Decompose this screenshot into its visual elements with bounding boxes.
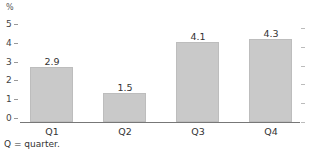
tick-mark [14,43,18,44]
tick-mark [14,62,18,63]
data-label-q3: 4.1 [176,31,220,42]
y-tick-label: 1 [6,94,12,104]
y-tick-4: 4 [6,38,18,48]
y-tick-label: 4 [6,38,12,48]
y-tick-label: 2 [6,75,12,85]
right-tick-mark [301,28,305,29]
x-tick-label-q2: Q2 [103,126,147,137]
tick-mark [14,118,18,119]
y-tick-2: 2 [6,75,18,85]
right-tick-mark [301,122,305,123]
right-tick-mark [301,47,305,48]
y-tick-label: 3 [6,57,12,67]
bar-q4 [249,39,292,122]
data-label-q4: 4.3 [249,28,293,39]
x-tick-label-q1: Q1 [30,126,74,137]
y-tick-label: 5 [6,19,12,29]
tick-mark [14,24,18,25]
y-tick-3: 3 [6,57,18,67]
footnote: Q = quarter. [4,139,60,149]
bar-q3 [176,42,219,122]
tick-mark [14,80,18,81]
bar-q2 [103,93,146,122]
right-tick-mark [301,103,305,104]
y-tick-5: 5 [6,19,18,29]
data-label-q2: 1.5 [103,82,147,93]
x-axis-line [20,122,300,123]
x-tick-label-q3: Q3 [176,126,220,137]
right-tick-mark [301,66,305,67]
y-tick-1: 1 [6,94,18,104]
y-tick-0: 0 [6,113,18,123]
right-tick-mark [301,84,305,85]
bar-q1 [30,67,73,122]
y-axis-unit: % [6,3,14,12]
tick-mark [14,99,18,100]
y-tick-label: 0 [6,113,12,123]
x-tick-label-q4: Q4 [249,126,293,137]
data-label-q1: 2.9 [30,56,74,67]
